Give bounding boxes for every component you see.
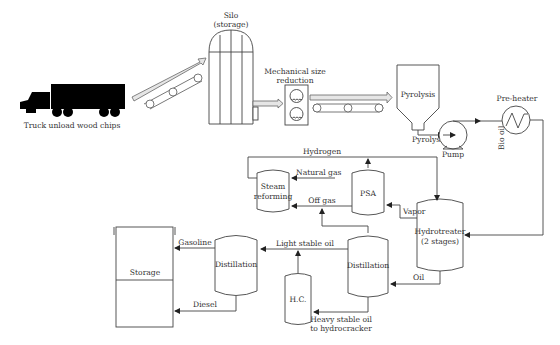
truck-icon — [20, 84, 125, 117]
distillation-light-label: Distillation — [215, 260, 257, 269]
preheater-label: Pre-heater — [497, 94, 538, 103]
steam-reforming-label-line2: reforming — [254, 192, 293, 201]
natural-gas-label: Natural gas — [296, 168, 342, 177]
silo-label-line2: (storage) — [214, 20, 249, 29]
heavy-oil-label-line2: to hydrocracker — [310, 324, 372, 333]
heat-exchanger-icon — [502, 106, 530, 134]
size-reduction-label-line2: reduction — [276, 76, 313, 85]
storage-label: Storage — [130, 268, 161, 277]
vapor-label: Vapor — [402, 207, 426, 216]
steam-reforming-label-line1: Steam — [261, 182, 285, 191]
psa-label: PSA — [360, 189, 376, 198]
light-stable-oil-label: Light stable oil — [276, 239, 334, 248]
truck-label: Truck unload wood chips — [24, 121, 121, 130]
steam-reforming-vessel — [257, 170, 289, 212]
pyrolysis-label: Pyrolysis — [401, 90, 436, 99]
hydrogen-label: Hydrogen — [303, 147, 341, 156]
inclined-conveyor-icon — [132, 58, 206, 109]
distillation-main-label: Distillation — [347, 261, 389, 270]
process-flow-diagram: Truck unload wood chips Silo (storage) M… — [0, 0, 560, 345]
hydrocracker-label: H.C. — [290, 295, 307, 304]
grinder-icon — [285, 85, 308, 125]
oil-label: Oil — [413, 273, 425, 282]
size-reduction-label-line1: Mechanical size — [264, 67, 326, 76]
heavy-oil-label-line1: Heavy stable oil — [310, 315, 372, 324]
pump-icon — [439, 121, 467, 149]
heavy-stable-oil-line — [314, 297, 368, 312]
gasoline-label: Gasoline — [178, 238, 212, 247]
off-gas-label: Off gas — [308, 196, 335, 205]
silo-label-line1: Silo — [224, 11, 239, 20]
hydrotreater-label-line1: Hydrotreater — [415, 227, 466, 236]
diesel-label: Diesel — [193, 300, 217, 309]
pump-label: Pump — [442, 150, 464, 159]
hydrotreater-label-line2: (2 stages) — [421, 237, 459, 246]
silo-icon — [209, 30, 258, 124]
horizontal-conveyor-icon — [310, 92, 392, 112]
storage-tank-icon — [114, 227, 175, 327]
